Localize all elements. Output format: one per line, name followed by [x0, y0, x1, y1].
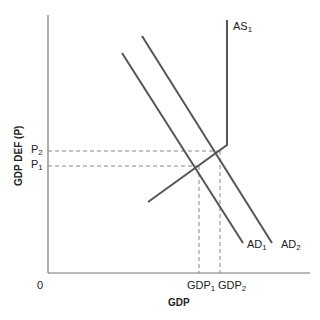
- ad1-label: AD1: [247, 239, 267, 252]
- gdp1-label: GDP1: [187, 280, 215, 293]
- p2-label: P2: [31, 144, 43, 157]
- origin-label: 0: [37, 280, 43, 291]
- ad2-curve: [142, 36, 272, 243]
- y-axis-title: GDP DEF (P): [14, 126, 24, 186]
- p1-label: P1: [31, 159, 43, 172]
- ad2-label: AD2: [281, 239, 301, 252]
- chart-canvas: [0, 0, 320, 320]
- gdp2-label: GDP2: [218, 280, 246, 293]
- x-axis-title: GDP: [168, 298, 190, 308]
- as1-label: AS1: [233, 21, 252, 34]
- ad1-curve: [122, 53, 243, 243]
